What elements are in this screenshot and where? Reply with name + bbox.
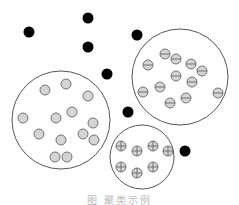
plain-point-icon bbox=[40, 85, 50, 95]
plain-point-icon bbox=[51, 113, 61, 123]
cluster-plus bbox=[110, 125, 174, 189]
minus-point-icon bbox=[197, 66, 207, 76]
plain-point-icon bbox=[50, 152, 60, 162]
minus-point-icon bbox=[155, 82, 165, 92]
plus-point-icon bbox=[116, 162, 126, 172]
plus-point-icon bbox=[148, 141, 158, 151]
minus-point-icon bbox=[171, 54, 181, 64]
cluster-minus bbox=[132, 29, 228, 125]
minus-point-icon bbox=[143, 60, 153, 70]
outlier-point-icon bbox=[83, 42, 94, 53]
plain-point-icon bbox=[78, 129, 88, 139]
minus-point-icon bbox=[213, 88, 223, 98]
plain-point-icon bbox=[62, 152, 72, 162]
outlier-point-icon bbox=[123, 107, 134, 118]
minus-point-icon bbox=[187, 77, 197, 87]
plus-point-icon bbox=[116, 141, 126, 151]
cluster-plain bbox=[12, 71, 110, 169]
plain-point-icon bbox=[83, 91, 93, 101]
cluster-diagram bbox=[0, 0, 239, 205]
outlier-point-icon bbox=[180, 146, 191, 157]
plain-point-icon bbox=[34, 129, 44, 139]
minus-point-icon bbox=[165, 98, 175, 108]
plus-point-icon bbox=[132, 168, 142, 178]
plus-point-icon bbox=[132, 146, 142, 156]
figure-caption: 图 聚类示例 bbox=[0, 194, 239, 205]
outlier-point-icon bbox=[132, 30, 143, 41]
outlier-point-icon bbox=[83, 13, 94, 24]
minus-point-icon bbox=[171, 71, 181, 81]
minus-point-icon bbox=[186, 59, 196, 69]
minus-point-icon bbox=[160, 49, 170, 59]
plain-point-icon bbox=[56, 135, 66, 145]
minus-point-icon bbox=[181, 93, 191, 103]
outlier-point-icon bbox=[102, 69, 113, 80]
minus-point-icon bbox=[138, 87, 148, 97]
plain-point-icon bbox=[18, 113, 28, 123]
plus-point-icon bbox=[163, 146, 173, 156]
outlier-point-icon bbox=[24, 27, 35, 38]
plain-point-icon bbox=[61, 79, 71, 89]
cluster-boundary bbox=[110, 125, 174, 189]
plain-point-icon bbox=[89, 135, 99, 145]
plain-point-icon bbox=[88, 118, 98, 128]
plain-point-icon bbox=[67, 107, 77, 117]
plus-point-icon bbox=[148, 162, 158, 172]
